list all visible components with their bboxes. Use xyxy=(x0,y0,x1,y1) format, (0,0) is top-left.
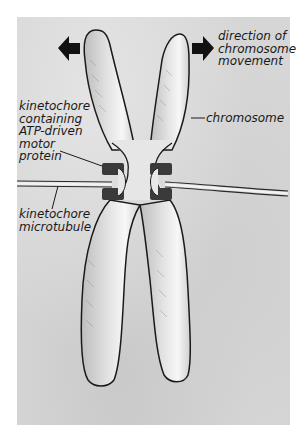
kinetochore-microtubule-left xyxy=(17,181,112,187)
leader-microtubule xyxy=(52,186,58,209)
label-chromosome: chromosome xyxy=(206,112,284,125)
label-kinetochore-microtubule: kinetochore microtubule xyxy=(19,208,91,233)
label-kinetochore-motor-protein: kinetochore containing ATP-driven motor … xyxy=(19,100,90,163)
kinetochore-right xyxy=(150,163,172,200)
kinetochore-microtubule-right xyxy=(165,182,288,196)
label-direction-of-movement: direction of chromosome movement xyxy=(218,30,296,68)
arrow-right-icon xyxy=(192,36,214,61)
chromosome xyxy=(81,30,190,386)
arrow-left-icon xyxy=(58,36,80,61)
